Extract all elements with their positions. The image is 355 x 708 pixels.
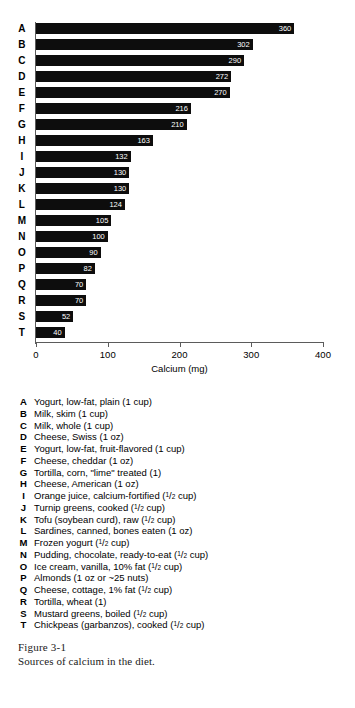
bar-category-label: L [14,199,30,210]
legend-item: HCheese, American (1 oz) [0,478,355,490]
bar: 272 [36,71,231,82]
bar-row: B302 [0,38,355,54]
bar: 132 [36,151,131,162]
bar-row: R70 [0,294,355,310]
legend-item: PAlmonds (1 oz or ~25 nuts) [0,572,355,584]
bar-category-label: M [14,215,30,226]
bar-value-label: 105 [96,215,109,226]
legend-item: TChickpeas (garbanzos), cooked (1/2 cup) [0,619,355,631]
bar-category-label: K [14,183,30,194]
x-axis-tick [323,342,324,347]
bar-value-label: 70 [75,279,83,290]
legend-item-label: Mustard greens, boiled (1/2 cup) [34,608,167,620]
bar: 216 [36,103,191,114]
bar-value-label: 40 [53,327,61,338]
bar-value-label: 360 [279,23,292,34]
bar-row: L124 [0,198,355,214]
legend-item-label: Pudding, chocolate, ready-to-eat (1/2 cu… [34,549,208,561]
legend-item-key: I [18,490,29,502]
legend-item-label: Chickpeas (garbanzos), cooked (1/2 cup) [34,619,204,631]
legend-item-label: Tortilla, corn, "lime" treated (1) [34,467,161,479]
x-axis-tick [108,342,109,347]
x-axis-tick [36,342,37,347]
legend-item-key: Q [18,584,29,596]
legend-item-label: Almonds (1 oz or ~25 nuts) [34,572,148,584]
legend-item-key: F [18,455,29,467]
bar: 130 [36,167,129,178]
bar-row: E270 [0,86,355,102]
bar: 360 [36,23,294,34]
legend-item-key: G [18,467,29,479]
bar-row: K130 [0,182,355,198]
bar: 70 [36,295,86,306]
legend-item-label: Cheese, American (1 oz) [34,478,139,490]
bar-category-label: F [14,103,30,114]
bar-category-label: B [14,39,30,50]
bar-row: G210 [0,118,355,134]
legend-item-label: Sardines, canned, bones eaten (1 oz) [34,525,192,537]
figure-caption: Figure 3-1 Sources of calcium in the die… [18,641,155,668]
legend-item: AYogurt, low-fat, plain (1 cup) [0,396,355,408]
bar-category-label: J [14,167,30,178]
legend-item-label: Ice cream, vanilla, 10% fat (1/2 cup) [34,561,182,573]
legend-item-key: R [18,596,29,608]
legend-item-label: Yogurt, low-fat, plain (1 cup) [34,396,152,408]
legend-list: AYogurt, low-fat, plain (1 cup)BMilk, sk… [0,396,355,631]
legend-item-label: Milk, whole (1 cup) [34,420,113,432]
legend-item: FCheese, cheddar (1 oz) [0,455,355,467]
bar: 302 [36,39,253,50]
legend-item: GTortilla, corn, "lime" treated (1) [0,467,355,479]
bar-value-label: 100 [92,231,105,242]
bar-row: A360 [0,22,355,38]
legend-item-label: Yogurt, low-fat, fruit-flavored (1 cup) [34,443,185,455]
legend-item: NPudding, chocolate, ready-to-eat (1/2 c… [0,549,355,561]
legend-item-key: J [18,502,29,514]
legend-item-label: Orange juice, calcium-fortified (1/2 cup… [34,490,196,502]
legend-item-key: C [18,420,29,432]
bar-row: Q70 [0,278,355,294]
bar-category-label: R [14,295,30,306]
legend-item: RTortilla, wheat (1) [0,596,355,608]
bar-value-label: 290 [229,55,242,66]
bar-category-label: D [14,71,30,82]
legend-item-key: O [18,561,29,573]
bar-category-label: G [14,119,30,130]
bar-value-label: 130 [114,183,127,194]
legend-item-label: Cheese, Swiss (1 oz) [34,431,124,443]
bar-category-label: T [14,327,30,338]
legend-item: BMilk, skim (1 cup) [0,408,355,420]
bar: 90 [36,247,101,258]
legend-item-label: Cheese, cheddar (1 oz) [34,455,133,467]
legend-item: SMustard greens, boiled (1/2 cup) [0,608,355,620]
bar-row: N100 [0,230,355,246]
x-axis: 0100200300400Calcium (mg) [0,342,355,382]
bar-value-label: 163 [137,135,150,146]
bar: 70 [36,279,86,290]
legend-item-key: S [18,608,29,620]
legend-item-key: A [18,396,29,408]
legend-item: IOrange juice, calcium-fortified (1/2 cu… [0,490,355,502]
legend-item-label: Milk, skim (1 cup) [34,408,108,420]
bar: 210 [36,119,187,130]
x-axis-tick [251,342,252,347]
figure-caption-title: Figure 3-1 [18,641,155,655]
figure-caption-description: Sources of calcium in the diet. [18,655,155,669]
bar: 40 [36,327,65,338]
bar: 124 [36,199,125,210]
bar-row: O90 [0,246,355,262]
legend-item-key: H [18,478,29,490]
legend-item-label: Tortilla, wheat (1) [34,596,106,608]
bar-row: C290 [0,54,355,70]
legend-item: OIce cream, vanilla, 10% fat (1/2 cup) [0,561,355,573]
x-axis-tick-label: 100 [100,349,116,360]
bar-row: P82 [0,262,355,278]
bar-value-label: 302 [237,39,250,50]
legend-item-key: E [18,443,29,455]
legend-item-key: T [18,619,29,631]
legend-item-label: Cheese, cottage, 1% fat (1/2 cup) [34,584,172,596]
bar-value-label: 70 [75,295,83,306]
x-axis-tick-label: 400 [315,349,331,360]
legend-item-key: B [18,408,29,420]
bar-category-label: P [14,263,30,274]
bar-row: H163 [0,134,355,150]
